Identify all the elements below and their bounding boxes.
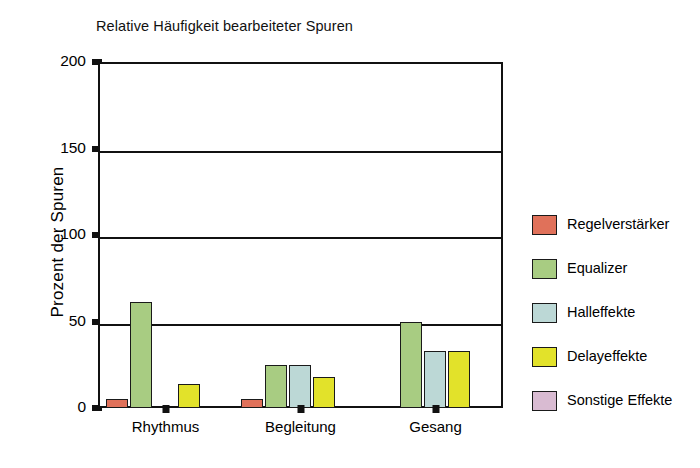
gridline-100 bbox=[100, 237, 501, 239]
y-tick-label-200: 200 bbox=[38, 52, 86, 70]
y-tick-label-0: 0 bbox=[38, 398, 86, 416]
chart-title: Relative Häufigkeit bearbeiteter Spuren bbox=[96, 18, 353, 34]
gridline-150 bbox=[100, 151, 501, 153]
legend-item-delayeffekte[interactable]: Delayeffekte bbox=[532, 346, 672, 390]
legend-label: Delayeffekte bbox=[567, 346, 647, 366]
gridline-50 bbox=[100, 324, 501, 326]
chart-figure: Relative Häufigkeit bearbeiteter Spuren … bbox=[0, 0, 700, 468]
legend-swatch-icon bbox=[532, 347, 557, 367]
legend-item-equalizer[interactable]: Equalizer bbox=[532, 258, 672, 302]
chart-legend: RegelverstärkerEqualizerHalleffekteDelay… bbox=[532, 214, 672, 434]
legend-item-regelverstärker[interactable]: Regelverstärker bbox=[532, 214, 672, 258]
x-tick-gesang bbox=[432, 405, 439, 413]
legend-swatch-icon bbox=[532, 303, 557, 323]
x-tick-rhythmus bbox=[162, 405, 169, 413]
legend-label: Equalizer bbox=[567, 258, 627, 278]
y-tick-label-100: 100 bbox=[38, 225, 86, 243]
legend-swatch-icon bbox=[532, 391, 557, 411]
y-tick-label-50: 50 bbox=[38, 312, 86, 330]
legend-item-halleffekte[interactable]: Halleffekte bbox=[532, 302, 672, 346]
x-tick-begleitung bbox=[297, 405, 304, 413]
legend-label: Sonstige Effekte bbox=[567, 390, 672, 410]
legend-label: Regelverstärker bbox=[567, 214, 669, 234]
plot-area bbox=[98, 62, 503, 408]
legend-swatch-icon bbox=[532, 259, 557, 279]
x-tick-label-gesang: Gesang bbox=[409, 418, 462, 435]
legend-swatch-icon bbox=[532, 215, 557, 235]
legend-item-sonstige-effekte[interactable]: Sonstige Effekte bbox=[532, 390, 672, 434]
x-tick-label-begleitung: Begleitung bbox=[265, 418, 336, 435]
y-tick-label-150: 150 bbox=[38, 139, 86, 157]
legend-label: Halleffekte bbox=[567, 302, 635, 322]
x-tick-label-rhythmus: Rhythmus bbox=[132, 418, 200, 435]
